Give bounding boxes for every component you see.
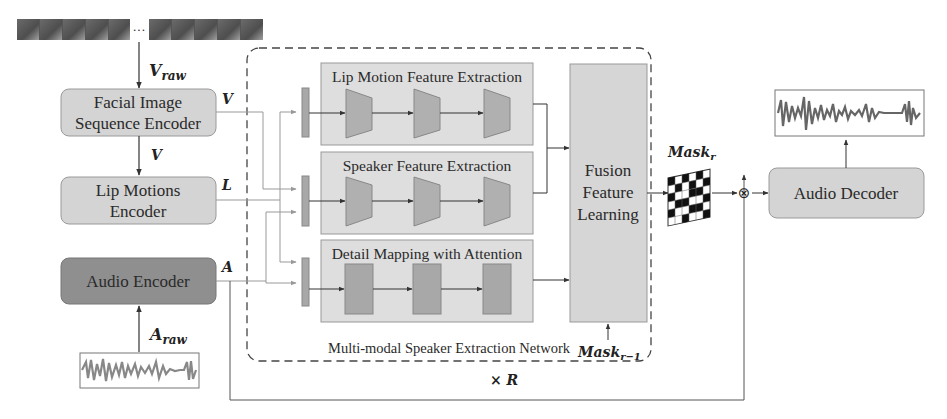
architecture-diagram: ··· Vraw Facial Image Sequence Encoder V… <box>0 0 947 419</box>
facial-output-v: V <box>222 91 235 107</box>
svg-text:Detail Mapping with Attention: Detail Mapping with Attention <box>332 245 523 262</box>
svg-text:Feature: Feature <box>583 183 634 202</box>
svg-text:Audio Encoder: Audio Encoder <box>86 272 190 291</box>
frames-ellipsis: ··· <box>133 22 146 37</box>
svg-text:Sequence Encoder: Sequence Encoder <box>75 114 201 133</box>
lip-motions-encoder: Lip Motions Encoder <box>61 177 216 224</box>
svg-text:Lip Motions: Lip Motions <box>96 181 181 200</box>
audio-decoder: Audio Decoder <box>769 168 924 218</box>
network-title: Multi-modal Speaker Extraction Network <box>328 340 571 356</box>
v-raw-label: Vraw <box>149 61 187 83</box>
svg-text:Fusion: Fusion <box>585 161 632 180</box>
facial-image-sequence-encoder: Facial Image Sequence Encoder <box>61 89 216 136</box>
mask-out-label: Maskr <box>667 144 716 162</box>
svg-text:Encoder: Encoder <box>110 202 167 221</box>
svg-text:Facial Image: Facial Image <box>94 93 182 112</box>
encoder-wiring <box>216 112 296 283</box>
branch-detail-mapping-with-attention: Detail Mapping with Attention <box>309 240 533 322</box>
mask-grid-icon <box>668 169 710 226</box>
concat-bar-3 <box>302 258 309 306</box>
svg-text:Speaker Feature Extraction: Speaker Feature Extraction <box>343 157 512 174</box>
output-audio-waveform <box>775 90 924 136</box>
fusion-feature-learning: Fusion Feature Learning <box>570 64 647 322</box>
lip-output-l: L <box>221 177 232 193</box>
lip-input-v: V <box>151 147 164 163</box>
branch-speaker-feature-extraction: Speaker Feature Extraction <box>309 152 533 234</box>
a-raw-label: Araw <box>148 325 188 347</box>
repeat-label: × R <box>490 372 518 388</box>
svg-text:Audio Decoder: Audio Decoder <box>794 184 899 203</box>
concat-bar-1 <box>302 88 309 137</box>
input-audio-waveform <box>80 353 199 388</box>
svg-text:Learning: Learning <box>577 205 639 224</box>
svg-text:Lip Motion Feature Extraction: Lip Motion Feature Extraction <box>332 68 522 85</box>
mask-prev-label: Maskr−1 <box>577 344 641 362</box>
concat-bar-2 <box>302 176 309 226</box>
audio-output-a: A <box>220 259 233 275</box>
audio-encoder: Audio Encoder <box>61 258 216 304</box>
multiply-icon: ⊗ <box>738 184 751 202</box>
branch-lip-motion-feature-extraction: Lip Motion Feature Extraction <box>309 63 533 145</box>
